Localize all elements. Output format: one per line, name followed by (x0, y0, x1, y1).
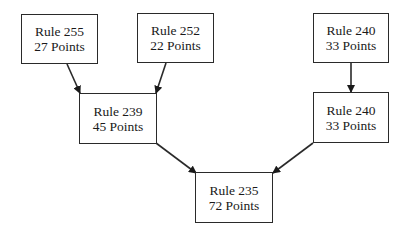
node-rule-label: Rule 235 (209, 183, 258, 198)
node-rule-252: Rule 252 22 Points (137, 13, 214, 63)
edge-arrow-r240b-to-r235 (273, 143, 313, 173)
node-points-label: 27 Points (34, 39, 85, 54)
node-points-label: 22 Points (150, 38, 201, 53)
edge-arrow-r239-to-r235 (156, 143, 196, 173)
node-points-label: 33 Points (326, 118, 377, 133)
node-rule-label: Rule 255 (35, 24, 84, 39)
edge-arrow-r252-to-r239 (156, 63, 166, 93)
node-rule-240-middle: Rule 240 33 Points (313, 92, 389, 143)
node-rule-label: Rule 252 (151, 23, 200, 38)
node-points-label: 33 Points (326, 38, 377, 53)
node-rule-label: Rule 240 (326, 103, 375, 118)
node-rule-240-top: Rule 240 33 Points (313, 13, 389, 63)
node-rule-235-root: Rule 235 72 Points (195, 172, 273, 223)
node-points-label: 45 Points (93, 119, 144, 134)
node-rule-239: Rule 239 45 Points (79, 93, 157, 144)
edge-arrow-r255-to-r239 (67, 64, 80, 93)
node-rule-label: Rule 240 (326, 23, 375, 38)
node-rule-255: Rule 255 27 Points (21, 14, 98, 64)
node-rule-label: Rule 239 (93, 104, 142, 119)
node-points-label: 72 Points (209, 198, 260, 213)
rule-tree-diagram: Rule 255 27 Points Rule 252 22 Points Ru… (0, 0, 405, 232)
